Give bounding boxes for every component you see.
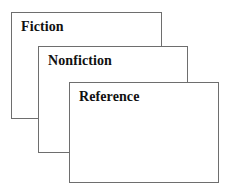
card-stack-canvas: Fiction Nonfiction Reference	[0, 0, 231, 192]
card-nonfiction-label: Nonfiction	[48, 52, 112, 70]
card-reference[interactable]: Reference	[69, 82, 219, 183]
card-fiction-label: Fiction	[21, 18, 64, 36]
card-reference-label: Reference	[79, 88, 140, 106]
